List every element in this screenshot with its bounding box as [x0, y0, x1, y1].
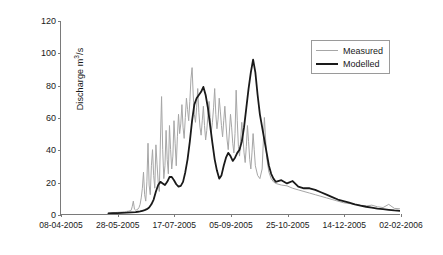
y-tick-label: 80 [46, 81, 56, 91]
legend-swatch-measured [316, 50, 338, 51]
x-tick-label: 25-10-2005 [266, 220, 309, 230]
x-tick-mark [288, 214, 289, 217]
x-tick-mark [118, 214, 119, 217]
legend: Measured Modelled [311, 40, 390, 74]
y-tick-label: 40 [46, 145, 56, 155]
x-tick-mark [174, 214, 175, 217]
x-tick-mark [344, 214, 345, 217]
x-tick-label: 14-12-2005 [323, 220, 366, 230]
legend-label-modelled: Modelled [343, 59, 380, 69]
series-line-modelled [108, 60, 400, 214]
x-tick-label: 02-02-2006 [379, 220, 422, 230]
series-line-measured [108, 68, 400, 213]
x-tick-mark [61, 214, 62, 217]
legend-label-measured: Measured [343, 46, 383, 56]
x-tick-label: 17-07-2005 [153, 220, 196, 230]
x-tick-mark [401, 214, 402, 217]
plot-area: Discharge m3/s 020406080100120 08-04-200… [60, 21, 400, 215]
x-tick-mark [231, 214, 232, 217]
y-tick-label: 20 [46, 178, 56, 188]
x-tick-label: 28-05-2005 [96, 220, 139, 230]
y-tick-label: 0 [51, 210, 56, 220]
y-tick-label: 120 [41, 16, 56, 26]
legend-item-measured: Measured [316, 44, 383, 57]
chart-figure: Discharge m3/s 020406080100120 08-04-200… [0, 0, 443, 255]
x-tick-label: 05-09-2005 [209, 220, 252, 230]
y-tick-label: 100 [41, 48, 56, 58]
x-tick-label: 08-04-2005 [39, 220, 82, 230]
y-tick-label: 60 [46, 113, 56, 123]
legend-swatch-modelled [316, 63, 338, 65]
legend-item-modelled: Modelled [316, 57, 383, 70]
